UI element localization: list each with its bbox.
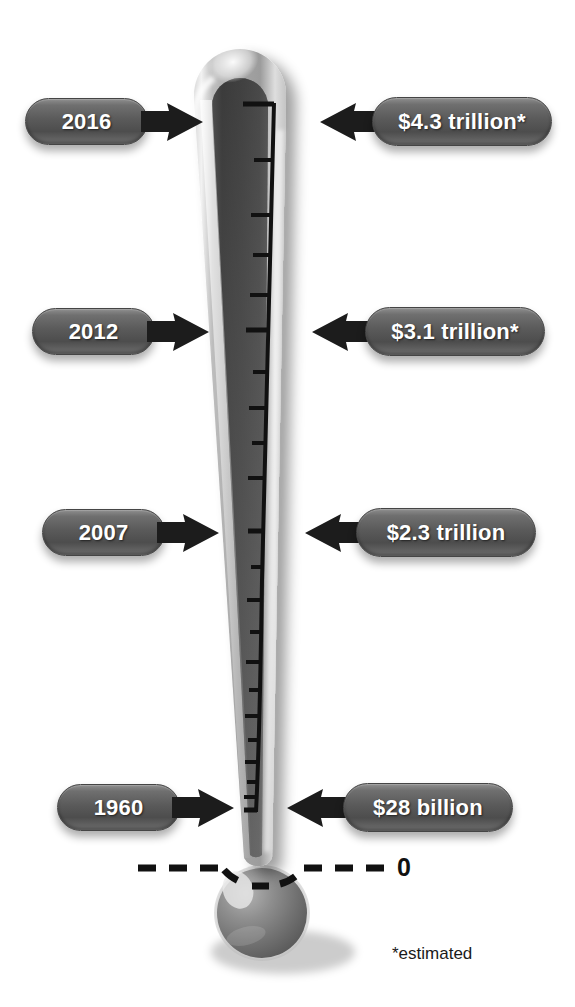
arrow-left-icon-1960 bbox=[285, 787, 351, 829]
year-badge-2007[interactable]: 2007 bbox=[42, 509, 165, 556]
value-badge-1960[interactable]: $28 billion bbox=[343, 783, 513, 832]
value-badge-2016[interactable]: $4.3 trillion* bbox=[372, 97, 552, 146]
arrow-right-icon-2012 bbox=[145, 311, 211, 353]
zero-axis-label: 0 bbox=[397, 855, 411, 880]
arrow-right-icon-1960 bbox=[170, 787, 236, 829]
value-badge-2012[interactable]: $3.1 trillion* bbox=[365, 307, 545, 356]
value-badge-2007[interactable]: $2.3 trillion bbox=[356, 508, 536, 557]
year-badge-2016-label: 2016 bbox=[62, 109, 112, 135]
year-badge-2016[interactable]: 2016 bbox=[25, 98, 148, 145]
value-badge-2007-label: $2.3 trillion bbox=[387, 520, 506, 546]
year-badge-2012-label: 2012 bbox=[69, 319, 119, 345]
year-badge-1960-label: 1960 bbox=[94, 795, 144, 821]
arrow-right-icon-2007 bbox=[155, 512, 221, 554]
value-badge-1960-label: $28 billion bbox=[373, 795, 483, 821]
value-badge-2016-label: $4.3 trillion* bbox=[398, 109, 526, 135]
arrow-right-icon-2016 bbox=[139, 101, 205, 143]
year-badge-1960[interactable]: 1960 bbox=[57, 784, 180, 831]
year-badge-2012[interactable]: 2012 bbox=[32, 308, 155, 355]
value-badge-2012-label: $3.1 trillion* bbox=[391, 319, 519, 345]
infographic-canvas: 0 *estimated 2016 $4.3 trillion* 2012 $3… bbox=[0, 0, 575, 1007]
year-badge-2007-label: 2007 bbox=[79, 520, 129, 546]
estimated-footnote: *estimated bbox=[392, 944, 472, 964]
thermometer-graphic bbox=[0, 0, 575, 1007]
